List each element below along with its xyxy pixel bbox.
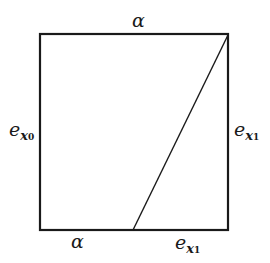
diagonal-line [133, 35, 228, 230]
label-right-base: e [234, 118, 245, 140]
label-bottom-right-sub: x [186, 241, 194, 256]
label-left-sub: x [20, 128, 28, 143]
label-right-ex1: ex1 [234, 120, 259, 139]
label-left-base: e [9, 118, 20, 140]
label-left-ex0: ex0 [9, 120, 34, 139]
label-right-subsub: 1 [253, 132, 259, 142]
label-top-base: α [132, 9, 145, 31]
label-left-subsub: 0 [28, 132, 34, 142]
label-bottom-right-base: e [175, 231, 186, 253]
label-bottom-ex1: ex1 [175, 233, 200, 252]
diagram-canvas [0, 0, 270, 263]
label-bottom-alpha: α [71, 232, 84, 251]
label-top-alpha: α [132, 11, 145, 30]
label-bottom-left-base: α [71, 230, 84, 252]
label-bottom-right-subsub: 1 [194, 245, 200, 255]
label-right-sub: x [245, 128, 253, 143]
square [40, 34, 228, 230]
